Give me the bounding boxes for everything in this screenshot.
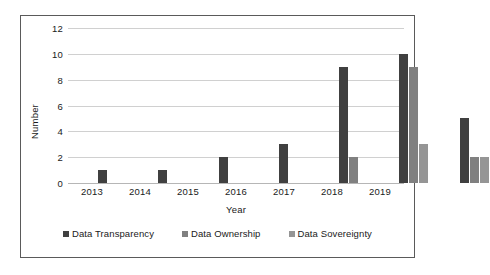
axis-baseline (68, 183, 404, 184)
bar-group (128, 28, 188, 183)
bar-group (188, 28, 248, 183)
x-axis-tick: 2018 (308, 186, 356, 200)
y-axis-tick: 2 (37, 152, 63, 163)
bar (349, 157, 358, 183)
x-axis-tick-labels: 2013201420152016201720182019 (68, 186, 404, 200)
bar (419, 144, 428, 183)
bar-group (309, 28, 369, 183)
legend-swatch-icon (182, 231, 188, 237)
y-axis-tick: 10 (37, 48, 63, 59)
x-axis-tick: 2014 (116, 186, 164, 200)
legend-swatch-icon (289, 231, 295, 237)
bar (470, 157, 479, 183)
x-axis-label: Year (68, 204, 404, 215)
y-axis-tick: 4 (37, 126, 63, 137)
x-axis-tick: 2019 (356, 186, 404, 200)
plot-area-wrapper: Number 024681012 20132014201520162017201… (21, 16, 414, 257)
x-axis-tick: 2013 (68, 186, 116, 200)
bar (339, 67, 348, 183)
bar (98, 170, 107, 183)
y-axis-tick: 0 (37, 178, 63, 189)
bar (409, 67, 418, 183)
legend-label: Data Ownership (191, 228, 261, 239)
bar-group (369, 28, 429, 183)
legend-item[interactable]: Data Ownership (182, 228, 261, 239)
legend-label: Data Transparency (72, 228, 154, 239)
y-axis-tick: 12 (37, 23, 63, 34)
y-axis-tick: 8 (37, 74, 63, 85)
y-axis-tick-labels: 024681012 (37, 28, 63, 183)
y-axis-tick: 6 (37, 100, 63, 111)
bar (219, 157, 228, 183)
bar-group (429, 28, 489, 183)
legend-label: Data Sovereignty (298, 228, 372, 239)
bar (480, 157, 489, 183)
x-axis-tick: 2017 (260, 186, 308, 200)
bar (158, 170, 167, 183)
chart-figure: Number 024681012 20132014201520162017201… (20, 15, 415, 258)
chart-legend: Data TransparencyData OwnershipData Sove… (21, 228, 414, 239)
legend-item[interactable]: Data Transparency (63, 228, 154, 239)
bar-groups (68, 28, 404, 183)
bar (460, 118, 469, 183)
bar-group (249, 28, 309, 183)
x-axis-tick: 2015 (164, 186, 212, 200)
bar-group (68, 28, 128, 183)
x-axis-tick: 2016 (212, 186, 260, 200)
bar (399, 54, 408, 183)
plot-area (68, 28, 404, 183)
legend-swatch-icon (63, 231, 69, 237)
bar (279, 144, 288, 183)
legend-item[interactable]: Data Sovereignty (289, 228, 372, 239)
